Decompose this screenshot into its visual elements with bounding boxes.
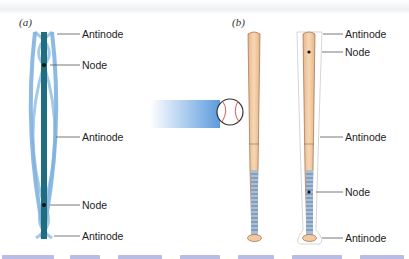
node-dot — [42, 203, 46, 207]
baseball-motion — [150, 99, 243, 128]
vibrating-rod — [31, 32, 56, 239]
label-antinode-b1: Antinode — [345, 28, 386, 40]
baseball-icon — [217, 99, 243, 125]
label-node-b1: Node — [345, 46, 370, 58]
figure-caption-clipped — [0, 252, 409, 259]
label-node-a1: Node — [82, 59, 107, 71]
label-antinode-a1: Antinode — [82, 28, 123, 40]
label-antinode-b3: Antinode — [345, 232, 386, 244]
node-dot — [307, 50, 310, 53]
baseball-bat — [248, 32, 262, 242]
vibrating-bat — [297, 32, 322, 244]
label-node-b2: Node — [345, 186, 370, 198]
label-node-a2: Node — [82, 199, 107, 211]
node-dot — [307, 190, 310, 193]
node-dot — [42, 63, 46, 67]
leader-lines-b — [316, 34, 343, 238]
panel-b-label: (b) — [232, 16, 245, 28]
label-antinode-a3: Antinode — [82, 230, 123, 242]
label-antinode-b2: Antinode — [345, 131, 386, 143]
label-antinode-a2: Antinode — [82, 131, 123, 143]
